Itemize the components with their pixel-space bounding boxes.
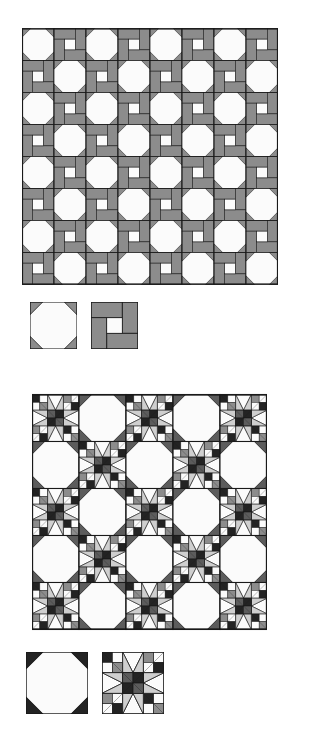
quilt-top-canvas (22, 28, 278, 285)
legend-row-two (26, 652, 178, 714)
quilt-diagram-bottom (32, 390, 267, 634)
star-block-swatch (102, 652, 164, 714)
wrench-block-swatch (91, 302, 138, 349)
snowball-block-swatch (30, 302, 77, 349)
quilt-diagram-top (22, 28, 278, 285)
snowball-block-swatch (26, 652, 88, 714)
quilt-bottom-canvas (32, 390, 267, 634)
legend-row-one (30, 302, 152, 349)
